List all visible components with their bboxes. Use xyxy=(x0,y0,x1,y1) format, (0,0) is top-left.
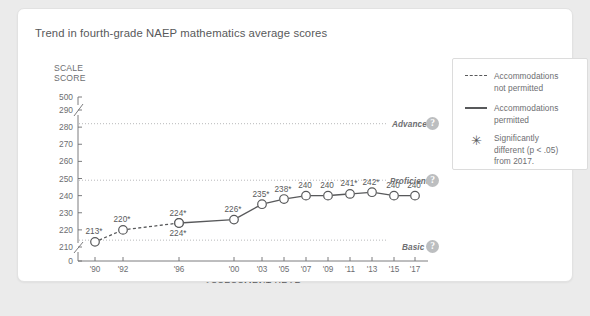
y-tick-label: 280 xyxy=(59,122,73,132)
data-point-marker[interactable] xyxy=(258,200,267,209)
x-tick-label: '13 xyxy=(367,265,378,274)
asterisk-symbol-icon: ✳ xyxy=(463,133,489,145)
data-point-label: 235* xyxy=(253,190,271,199)
x-tick-label: '15 xyxy=(389,265,400,274)
legend-item-significance: ✳ Significantly different (p < .05) from… xyxy=(463,133,558,168)
x-tick-label: '11 xyxy=(345,265,356,274)
y-tick-label: 290 xyxy=(59,105,73,115)
x-tick-label: '07 xyxy=(301,265,312,274)
legend-label-line1: Accommodations xyxy=(494,103,558,115)
achievement-label-basic: Basic xyxy=(402,243,424,252)
achievement-label-proficient: Proficient xyxy=(390,177,429,186)
legend-label-line2: different (p < .05) xyxy=(494,145,558,157)
y-tick-label: 500 xyxy=(59,92,73,102)
data-point-label: 224* xyxy=(170,209,188,218)
y-tick-label: 260 xyxy=(59,156,73,166)
y-axis-break-mark-1 xyxy=(74,242,83,253)
data-point-label: 241* xyxy=(341,179,359,188)
data-point-marker[interactable] xyxy=(119,226,128,235)
data-point-marker[interactable] xyxy=(91,238,100,247)
x-tick-label: '09 xyxy=(323,265,334,274)
legend-label-line3: from 2017. xyxy=(494,156,558,168)
series-segment xyxy=(128,224,175,230)
series-segment xyxy=(184,220,230,223)
chart-legend: Accommodations not permitted Accommodati… xyxy=(452,58,588,170)
data-point-marker[interactable] xyxy=(324,191,333,200)
y-tick-label: 0 xyxy=(68,256,73,266)
legend-label-line2: permitted xyxy=(494,115,558,127)
legend-label-line1: Accommodations xyxy=(494,71,558,83)
y-tick-label: 220 xyxy=(59,225,73,235)
data-point-label: 242* xyxy=(363,178,381,187)
x-axis-title: ASSESSMENT YEAR xyxy=(204,280,301,283)
data-point-marker[interactable] xyxy=(346,190,355,199)
question-mark-icon-proficient[interactable]: ? xyxy=(426,174,439,187)
data-point-marker[interactable] xyxy=(302,191,311,200)
x-tick-label: '03 xyxy=(257,265,268,274)
series-segment xyxy=(355,193,368,194)
legend-label-line1: Significantly xyxy=(494,133,558,145)
data-point-marker[interactable] xyxy=(368,188,377,197)
data-point-label: 238* xyxy=(275,185,293,194)
x-tick-label: '17 xyxy=(410,265,421,274)
data-point-label: 240 xyxy=(298,181,312,190)
x-tick-label: '00 xyxy=(229,265,240,274)
data-point-label: 213* xyxy=(86,227,104,236)
series-segment xyxy=(333,194,346,195)
question-mark-icon-basic[interactable]: ? xyxy=(426,240,439,253)
y-tick-label: 250 xyxy=(59,174,73,184)
data-point-label: 240 xyxy=(320,181,334,190)
legend-item-accommodations-not-permitted: Accommodations not permitted xyxy=(463,71,558,94)
data-point-marker[interactable] xyxy=(390,191,399,200)
series-segment xyxy=(289,196,302,198)
legend-item-accommodations-permitted: Accommodations permitted xyxy=(463,103,558,126)
x-tick-label: '90 xyxy=(90,265,101,274)
dashed-line-swatch xyxy=(463,71,489,76)
screenshot-root: Trend in fourth-grade NAEP mathematics a… xyxy=(0,0,590,316)
chart-card: Trend in fourth-grade NAEP mathematics a… xyxy=(17,8,573,282)
question-mark-icon-advanced[interactable]: ? xyxy=(426,117,439,130)
series-segment xyxy=(266,200,279,203)
data-point-label: 226* xyxy=(225,205,243,214)
y-tick-label: 270 xyxy=(59,139,73,149)
x-tick-label: '96 xyxy=(174,265,185,274)
legend-label-line2: not permitted xyxy=(494,83,558,95)
data-point-label: 224* xyxy=(170,229,188,238)
x-tick-label: '92 xyxy=(118,265,129,274)
series-segment xyxy=(377,193,390,195)
data-point-marker[interactable] xyxy=(280,195,289,204)
y-tick-label: 230 xyxy=(59,208,73,218)
data-point-marker[interactable] xyxy=(411,191,420,200)
y-tick-label: 240 xyxy=(59,191,73,201)
data-point-label: 220* xyxy=(114,215,132,224)
data-point-marker[interactable] xyxy=(230,215,239,224)
data-point-marker[interactable] xyxy=(175,219,184,228)
y-tick-label: 210 xyxy=(59,242,73,252)
solid-line-swatch xyxy=(463,103,489,109)
x-tick-label: '05 xyxy=(279,265,290,274)
